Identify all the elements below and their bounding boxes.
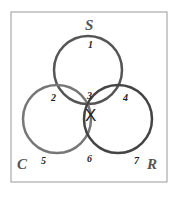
region-1: 1 xyxy=(88,39,93,50)
region-6: 6 xyxy=(87,153,92,164)
set-label-s: S xyxy=(85,17,93,33)
region-3: 3 xyxy=(86,90,92,101)
region-5: 5 xyxy=(41,155,46,166)
region-4: 4 xyxy=(122,92,128,103)
venn-diagram: S C R 1 2 3 4 5 6 7 X xyxy=(0,0,176,197)
set-label-r: R xyxy=(146,156,157,172)
circle-c xyxy=(23,85,91,153)
x-mark: X xyxy=(85,106,96,125)
region-7: 7 xyxy=(134,155,140,166)
region-2: 2 xyxy=(50,92,56,103)
set-label-c: C xyxy=(17,156,28,172)
